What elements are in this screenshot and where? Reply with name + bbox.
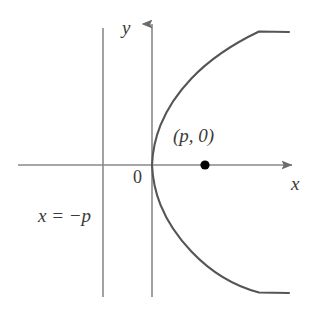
y-axis-label: y: [122, 18, 130, 37]
parabola-svg-canvas: [0, 0, 316, 318]
parabola-lower-branch: [152, 165, 289, 293]
parabola-figure: y x 0 (p, 0) x = −p: [0, 0, 316, 318]
origin-label: 0: [133, 168, 142, 186]
focus-point-marker: [200, 160, 209, 169]
x-axis-label: x: [291, 174, 299, 193]
directrix-label: x = −p: [38, 206, 91, 225]
focus-point-label: (p, 0): [173, 126, 214, 145]
